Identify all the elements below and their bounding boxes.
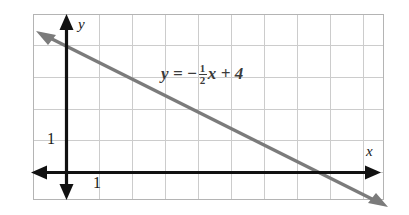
- equation-minus: −: [187, 64, 198, 83]
- equation-lhs: y: [161, 64, 169, 83]
- equation-annotation: y = −12x + 4: [161, 64, 244, 87]
- graph-figure: y x 1 1 y = −12x + 4: [0, 0, 409, 215]
- fraction-numerator: 1: [199, 63, 207, 74]
- x-axis-label: x: [366, 143, 373, 160]
- equation-equals: =: [173, 64, 183, 83]
- equation-fraction: 12: [199, 63, 207, 86]
- fraction-denominator: 2: [199, 74, 207, 86]
- equation-constant: 4: [235, 64, 244, 83]
- y-axis-tick-label-1: 1: [47, 130, 55, 148]
- coordinate-plane-svg: [0, 0, 409, 215]
- equation-plus: +: [221, 64, 231, 83]
- x-axis-tick-label-1: 1: [93, 174, 101, 192]
- y-axis-label: y: [78, 16, 85, 33]
- equation-variable: x: [208, 64, 217, 83]
